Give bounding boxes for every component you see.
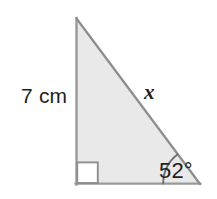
right-angle-marker-icon: [77, 162, 98, 183]
label-acute-angle: 52°: [159, 160, 193, 182]
label-hypotenuse: x: [144, 82, 155, 103]
triangle-figure: 7 cm x 52°: [0, 0, 217, 199]
label-vertical-side: 7 cm: [21, 85, 67, 106]
